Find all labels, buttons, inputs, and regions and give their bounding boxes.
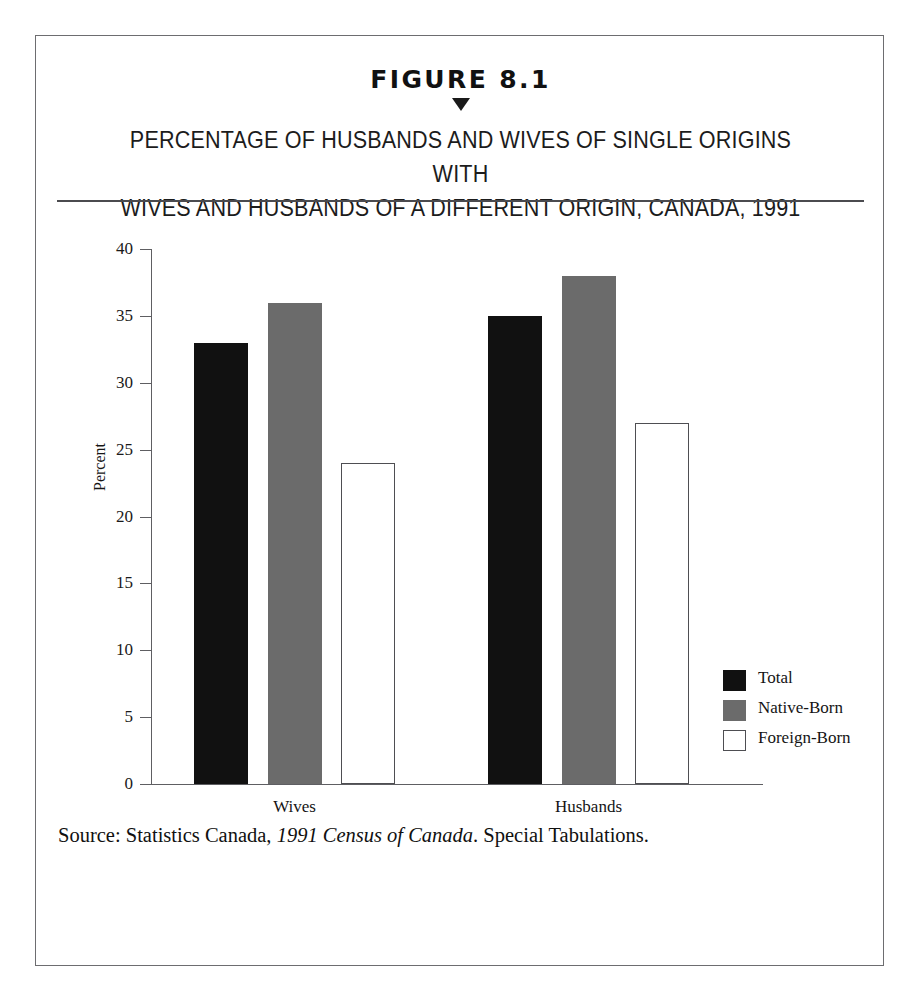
y-axis-tick: 30 [140, 383, 151, 384]
y-axis-tick: 5 [140, 717, 151, 718]
legend-swatch-native-born [723, 700, 746, 721]
y-axis-tick-label: 25 [116, 440, 133, 460]
y-axis-title: Percent [91, 443, 109, 491]
y-axis-tick: 35 [140, 316, 151, 317]
legend-label-foreign-born: Foreign-Born [758, 728, 851, 748]
y-axis-tick: 15 [140, 583, 151, 584]
bar-wives-native-born[interactable] [268, 303, 322, 785]
y-axis-tick: 0 [140, 784, 151, 785]
y-axis-tick-label: 30 [116, 373, 133, 393]
y-axis-tick: 25 [140, 450, 151, 451]
bar-wives-total[interactable] [194, 343, 248, 784]
bar-husbands-total[interactable] [488, 316, 542, 784]
legend-label-native-born: Native-Born [758, 698, 843, 718]
source-citation-title: 1991 Census of Canada [277, 824, 473, 846]
y-axis-tick-label: 20 [116, 507, 133, 527]
y-axis-tick-label: 10 [116, 640, 133, 660]
y-axis-tick-label: 15 [116, 573, 133, 593]
bar-husbands-foreign-born[interactable] [635, 423, 689, 784]
legend-label-total: Total [758, 668, 793, 688]
source-suffix: . Special Tabulations. [473, 824, 649, 846]
y-axis-tick-label: 40 [116, 239, 133, 259]
bar-wives-foreign-born[interactable] [341, 463, 395, 784]
y-axis-tick-label: 35 [116, 306, 133, 326]
plot-box: 40 35 30 25 20 15 10 [151, 249, 763, 784]
bar-husbands-native-born[interactable] [562, 276, 616, 784]
source-prefix: Source: Statistics Canada, [58, 824, 277, 846]
figure-frame: FIGURE 8.1 PERCENTAGE OF HUSBANDS AND WI… [35, 35, 884, 966]
y-axis-tick: 20 [140, 517, 151, 518]
y-axis-tick-label: 5 [125, 707, 134, 727]
legend-swatch-total [723, 670, 746, 691]
figure-page: FIGURE 8.1 PERCENTAGE OF HUSBANDS AND WI… [0, 0, 917, 990]
y-axis-tick: 40 [140, 249, 151, 250]
legend-swatch-foreign-born [723, 730, 746, 751]
x-axis-label-husbands: Husbands [488, 797, 689, 817]
source-note: Source: Statistics Canada, 1991 Census o… [58, 824, 649, 847]
y-axis-tick-label: 0 [125, 774, 134, 794]
y-axis-line [151, 249, 152, 785]
x-axis-label-wives: Wives [194, 797, 395, 817]
x-axis-line [151, 784, 763, 785]
y-axis-tick: 10 [140, 650, 151, 651]
